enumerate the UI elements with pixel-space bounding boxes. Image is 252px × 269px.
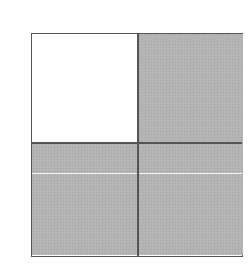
quadrant-bottom-right: Bottom right quadrant: [138, 143, 243, 255]
quadrant-bottom-left: Bottom left quadrant: [32, 143, 138, 255]
figure-canvas: Top left quadrant Top right quadrant Bot…: [0, 0, 252, 269]
quadrant-top-left: Top left quadrant: [32, 34, 138, 143]
quadrant-square: Top left quadrant Top right quadrant Bot…: [31, 33, 243, 257]
quadrant-top-right: Top right quadrant: [138, 34, 243, 143]
vertical-divider: [137, 34, 139, 256]
horizontal-divider: [32, 142, 242, 144]
figure-title: Four-quadrant square diagram: [0, 0, 1, 1]
quadrant-top-left-label: Top left quadrant: [32, 34, 33, 35]
